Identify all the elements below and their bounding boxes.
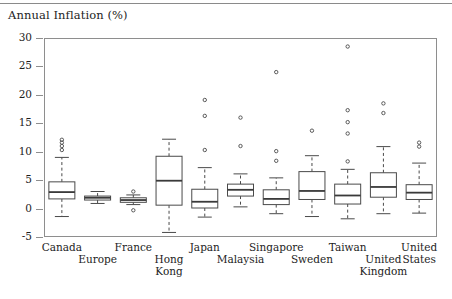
outlier-point — [382, 111, 385, 114]
x-axis-label-hong-kong: HongKong — [129, 254, 209, 277]
outlier-point — [132, 209, 135, 212]
y-tick-label-20: 20 — [2, 89, 32, 99]
plot-area: -5051015202530 — [44, 38, 437, 237]
x-axis-label-france: France — [93, 242, 173, 254]
box-iqr — [370, 173, 396, 197]
outlier-point — [346, 120, 349, 123]
box-iqr — [299, 172, 325, 200]
y-tick--5 — [36, 237, 43, 238]
outlier-point — [60, 144, 63, 147]
boxplot-canada — [49, 138, 75, 216]
y-tick-label-15: 15 — [2, 117, 32, 127]
header-rule — [0, 3, 452, 4]
outlier-point — [346, 160, 349, 163]
outlier-point — [275, 149, 278, 152]
boxplot-singapore — [263, 70, 289, 213]
y-tick-label-25: 25 — [2, 60, 32, 70]
y-tick-label-30: 30 — [2, 32, 32, 42]
y-tick-label-5: 5 — [2, 174, 32, 184]
box-iqr — [263, 190, 289, 205]
boxplot-hong-kong — [156, 139, 182, 232]
box-iqr — [49, 182, 75, 199]
boxplot-taiwan — [335, 45, 361, 219]
chart-figure: Annual Inflation (%) -5051015202530 Cana… — [0, 0, 452, 299]
outlier-point — [275, 159, 278, 162]
box-iqr — [192, 189, 218, 208]
boxplot-sweden — [299, 129, 325, 217]
boxplot-france — [120, 190, 146, 212]
y-tick-label-0: 0 — [2, 203, 32, 213]
x-axis-label-sweden: Sweden — [272, 254, 352, 266]
x-axis-label-singapore: Singapore — [236, 242, 316, 254]
outlier-point — [239, 144, 242, 147]
x-axis-label-malaysia: Malaysia — [201, 254, 281, 266]
y-tick-30 — [36, 38, 43, 39]
boxplot-united-kingdom — [370, 102, 396, 214]
outlier-point — [132, 190, 135, 193]
x-axis-label-europe: Europe — [58, 254, 138, 266]
y-tick-15 — [36, 123, 43, 124]
outlier-point — [310, 129, 313, 132]
outlier-point — [275, 70, 278, 73]
outlier-point — [203, 148, 206, 151]
y-tick-0 — [36, 209, 43, 210]
outlier-point — [203, 114, 206, 117]
x-axis-label-united-states: UnitedStates — [379, 242, 452, 265]
outlier-point — [346, 45, 349, 48]
x-axis-labels: CanadaEuropeFranceHongKongJapanMalaysiaS… — [44, 240, 437, 298]
box-iqr — [335, 184, 361, 204]
outlier-point — [382, 102, 385, 105]
y-tick-label-10: 10 — [2, 146, 32, 156]
boxplot-japan — [192, 98, 218, 217]
y-tick-5 — [36, 180, 43, 181]
boxplot-united-states — [406, 141, 432, 213]
outlier-point — [346, 109, 349, 112]
boxplot-europe — [85, 192, 111, 204]
outlier-point — [346, 132, 349, 135]
y-tick-10 — [36, 152, 43, 153]
outlier-point — [239, 116, 242, 119]
boxplot-malaysia — [228, 116, 254, 207]
outlier-point — [60, 148, 63, 151]
x-axis-label-canada: Canada — [22, 242, 102, 254]
outlier-point — [417, 141, 420, 144]
y-tick-label--5: -5 — [2, 231, 32, 241]
y-tick-20 — [36, 95, 43, 96]
outlier-point — [203, 98, 206, 101]
x-axis-label-taiwan: Taiwan — [308, 242, 388, 254]
y-tick-25 — [36, 66, 43, 67]
chart-title: Annual Inflation (%) — [8, 8, 128, 22]
boxplot-series — [44, 38, 437, 237]
x-axis-label-japan: Japan — [165, 242, 245, 254]
outlier-point — [417, 145, 420, 148]
